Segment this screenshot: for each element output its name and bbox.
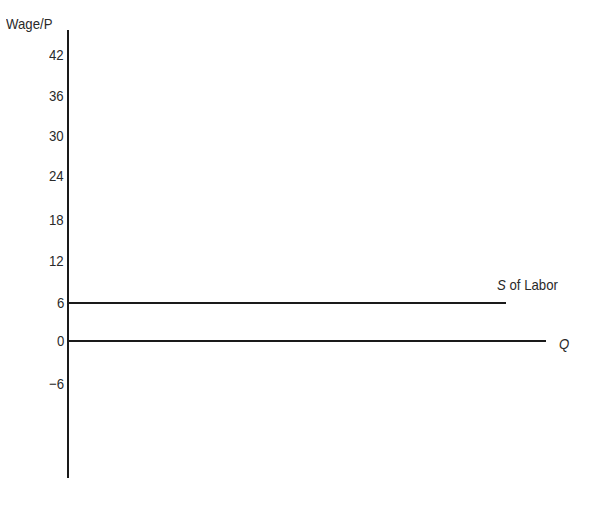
- x-axis-line: [68, 340, 546, 342]
- y-tick-label: 0: [57, 332, 64, 349]
- y-axis-label: Wage/P: [6, 15, 52, 32]
- y-tick-label: 6: [57, 294, 64, 311]
- supply-label-rest: of Labor: [506, 276, 558, 293]
- y-axis-line: [67, 30, 69, 478]
- y-tick-label: −6: [49, 375, 64, 392]
- supply-symbol: S: [497, 276, 506, 293]
- y-tick-label: 42: [49, 46, 64, 63]
- labor-supply-label: S of Labor: [497, 276, 558, 293]
- y-tick-label: 24: [49, 167, 64, 184]
- y-tick-label: 12: [49, 252, 64, 269]
- labor-supply-line: [68, 302, 506, 304]
- y-tick-label: 18: [49, 211, 64, 228]
- x-axis-label: Q: [559, 335, 569, 352]
- y-tick-label: 30: [49, 127, 64, 144]
- y-tick-label: 36: [49, 87, 64, 104]
